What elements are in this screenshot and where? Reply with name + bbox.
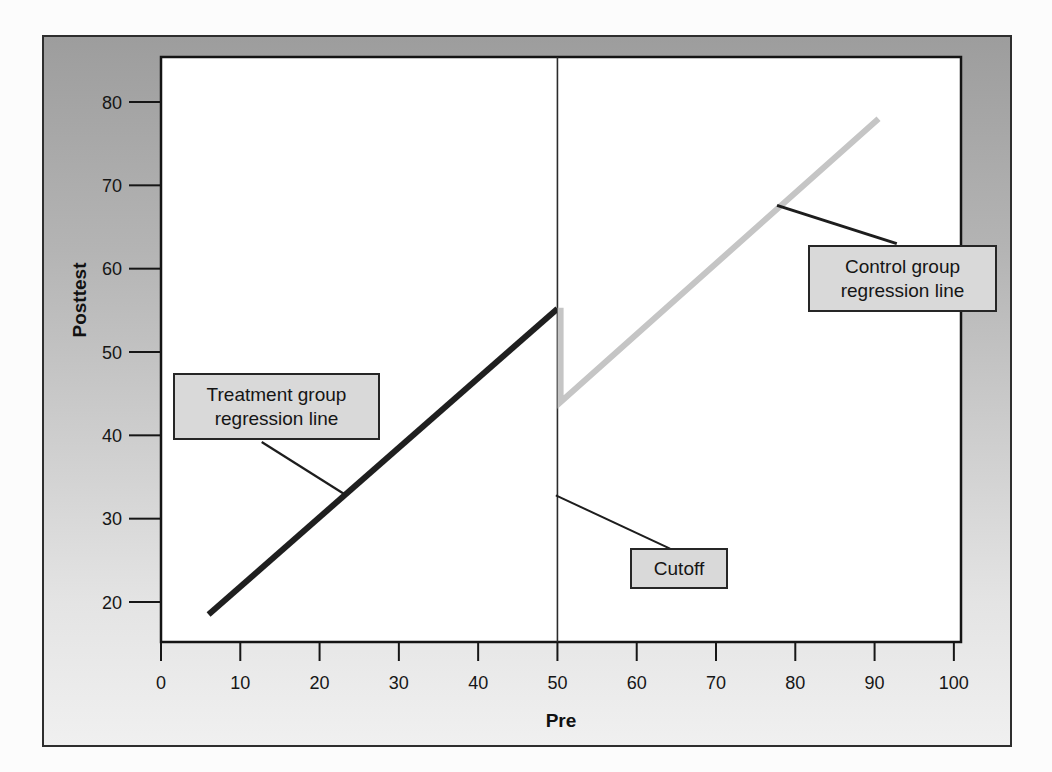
x-tick-label: 10 <box>230 673 250 693</box>
x-tick-label: 30 <box>389 673 409 693</box>
x-tick-label: 90 <box>865 673 885 693</box>
x-tick-label: 0 <box>156 673 166 693</box>
x-tick-label: 100 <box>939 673 969 693</box>
treatment-group-annotation-label: Treatment group regression line <box>183 383 370 431</box>
x-tick-label: 80 <box>785 673 805 693</box>
y-tick-label: 40 <box>102 426 122 446</box>
y-tick-label: 20 <box>102 593 122 613</box>
y-tick-label: 50 <box>102 343 122 363</box>
cutoff-annotation-label: Cutoff <box>654 557 704 581</box>
y-tick-label: 70 <box>102 176 122 196</box>
y-tick-label: 60 <box>102 259 122 279</box>
x-tick-label: 70 <box>706 673 726 693</box>
y-tick-label: 80 <box>102 93 122 113</box>
y-tick-label: 30 <box>102 509 122 529</box>
x-tick-label: 50 <box>547 673 567 693</box>
treatment-group-annotation-box: Treatment group regression line <box>173 373 380 440</box>
control-group-annotation-box: Control group regression line <box>808 245 997 312</box>
chart-panel: 010203040506070809010020304050607080 Pos… <box>42 35 1012 747</box>
x-tick-label: 60 <box>627 673 647 693</box>
y-axis-title: Posttest <box>69 263 91 338</box>
x-tick-label: 40 <box>468 673 488 693</box>
cutoff-annotation-box: Cutoff <box>630 548 728 589</box>
x-tick-label: 20 <box>310 673 330 693</box>
x-axis-title: Pre <box>546 710 577 732</box>
control-group-annotation-label: Control group regression line <box>818 255 987 303</box>
